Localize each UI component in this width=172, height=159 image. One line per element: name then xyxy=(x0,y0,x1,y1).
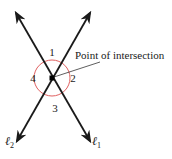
line-label-l1: ℓ1 xyxy=(92,134,101,150)
angle-label-1: 1 xyxy=(49,46,55,58)
angle-label-3: 3 xyxy=(52,102,58,114)
line-label-l2: ℓ2 xyxy=(5,134,14,150)
angle-label-4: 4 xyxy=(30,72,36,84)
line-label-l2-subscript: 2 xyxy=(10,141,14,150)
diagram-canvas: Point of intersection 1 2 3 4 ℓ2 ℓ1 xyxy=(0,0,172,159)
line-label-l1-subscript: 1 xyxy=(97,141,101,150)
intersecting-lines-diagram: Point of intersection 1 2 3 4 ℓ2 ℓ1 xyxy=(0,0,172,159)
callout-label: Point of intersection xyxy=(75,49,165,61)
intersection-point xyxy=(50,76,55,81)
angle-label-2: 2 xyxy=(70,72,76,84)
